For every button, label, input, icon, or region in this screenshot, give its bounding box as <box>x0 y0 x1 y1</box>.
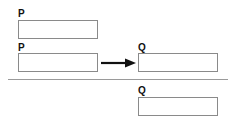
right-arrow-icon <box>101 58 136 68</box>
implication-target-label: Q <box>138 43 146 53</box>
premise1-box <box>18 20 98 39</box>
inference-line <box>8 79 228 80</box>
premise2-box <box>18 53 98 72</box>
premise1-label: P <box>18 9 25 19</box>
implication-target-box <box>138 53 218 72</box>
premise2-label: P <box>18 43 25 53</box>
conclusion-box <box>138 97 218 116</box>
conclusion-label: Q <box>138 86 146 96</box>
